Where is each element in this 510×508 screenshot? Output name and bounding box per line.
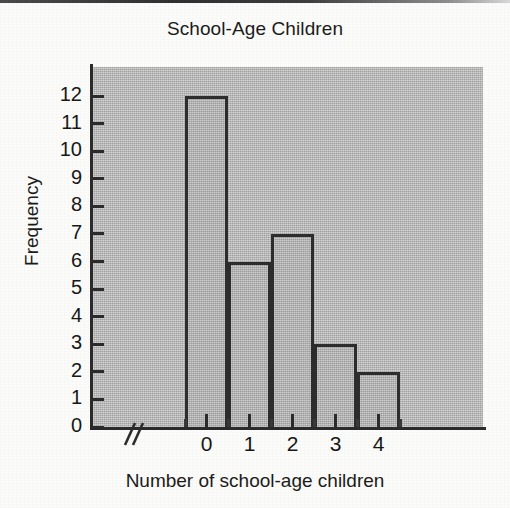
y-axis-tick	[93, 205, 104, 208]
y-axis-tick-label: 0	[48, 414, 82, 437]
x-axis-tick	[291, 414, 294, 427]
y-axis-tick-label: 10	[48, 138, 82, 161]
y-axis-tick-label: 12	[48, 83, 82, 106]
y-axis-line	[90, 64, 93, 430]
y-axis-tick	[93, 343, 104, 346]
x-axis-tick	[377, 414, 380, 427]
y-axis-tick-label: 2	[48, 359, 82, 382]
y-axis-tick-label: 9	[48, 166, 82, 189]
y-axis-tick-label: 11	[48, 111, 82, 134]
y-axis-tick	[93, 288, 104, 291]
x-axis-tick	[205, 414, 208, 427]
y-axis-tick-label: 1	[48, 386, 82, 409]
x-axis-tick	[248, 414, 251, 427]
y-axis-tick-label: 8	[48, 193, 82, 216]
y-axis-tick	[93, 260, 104, 263]
y-axis-tick-label: 6	[48, 249, 82, 272]
y-axis-tick	[93, 315, 104, 318]
x-axis-tick-label: 3	[316, 432, 356, 456]
x-axis-edge-tick	[270, 419, 273, 427]
scan-edge-line	[0, 0, 510, 3]
y-axis-tick	[93, 95, 104, 98]
x-axis-edge-tick	[399, 419, 402, 427]
axis-break-icon	[116, 421, 150, 447]
y-axis-tick	[93, 232, 104, 235]
y-axis-tick	[93, 426, 104, 429]
y-axis-tick	[93, 177, 104, 180]
x-axis-title: Number of school-age children	[0, 470, 510, 492]
plot-area	[93, 67, 483, 427]
y-axis-tick	[93, 122, 104, 125]
histogram-bar	[271, 234, 314, 427]
y-axis-tick-label: 7	[48, 221, 82, 244]
y-axis-tick	[93, 370, 104, 373]
x-axis-tick-label: 2	[273, 432, 313, 456]
x-axis-edge-tick	[356, 419, 359, 427]
x-axis-edge-tick	[184, 419, 187, 427]
y-axis-tick-label: 5	[48, 276, 82, 299]
x-axis-tick-label: 0	[187, 432, 227, 456]
y-axis-title: Frequency	[21, 151, 43, 291]
y-axis-tick-label: 3	[48, 331, 82, 354]
histogram-bar	[185, 96, 228, 427]
x-axis-tick	[334, 414, 337, 427]
x-axis-tick-label: 4	[359, 432, 399, 456]
y-axis-tick-label: 4	[48, 304, 82, 327]
x-axis-edge-tick	[313, 419, 316, 427]
x-axis-edge-tick	[227, 419, 230, 427]
y-axis-tick	[93, 150, 104, 153]
y-axis-tick	[93, 398, 104, 401]
x-axis-tick-label: 1	[230, 432, 270, 456]
chart-title: School-Age Children	[0, 18, 510, 40]
histogram-figure: School-Age Children 0123456789101112 Fre…	[0, 0, 510, 508]
histogram-bar	[228, 262, 271, 428]
